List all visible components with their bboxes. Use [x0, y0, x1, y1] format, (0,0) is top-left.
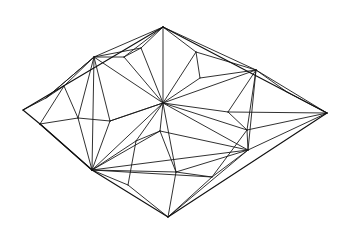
figure-root	[0, 0, 350, 240]
wireframe-mesh-canvas	[0, 0, 350, 240]
